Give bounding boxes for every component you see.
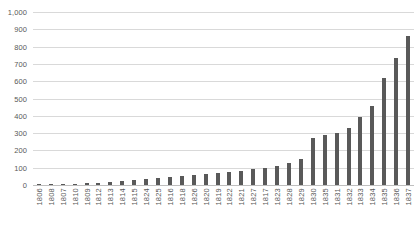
x-axis-tick-label: 1813 xyxy=(106,188,115,206)
x-axis-tick-label: 1834 xyxy=(368,188,377,206)
bar-slot xyxy=(224,12,236,185)
bar-slot xyxy=(45,12,57,185)
bar-slot xyxy=(259,12,271,185)
bar-slot xyxy=(366,12,378,185)
y-axis-tick-label: 500 xyxy=(14,94,27,103)
x-axis-tick-label: 1820 xyxy=(202,188,211,206)
bar xyxy=(85,183,89,185)
y-axis-tick-label: 700 xyxy=(14,59,27,68)
x-axis-tick-label: 1815 xyxy=(130,188,139,206)
bar-slot xyxy=(390,12,402,185)
x-axis-tick-label: 1823 xyxy=(273,188,282,206)
bar xyxy=(49,184,53,185)
bar-slot xyxy=(295,12,307,185)
bar-slot xyxy=(152,12,164,185)
x-axis: 1806180818071810180918121813181418151824… xyxy=(33,188,414,238)
bar-slot xyxy=(331,12,343,185)
bar xyxy=(132,180,136,185)
bar-slot xyxy=(57,12,69,185)
bar-slot xyxy=(212,12,224,185)
x-axis-tick-label: 1831 xyxy=(333,188,342,206)
x-axis-tick-label: 1837 xyxy=(404,188,413,206)
bar xyxy=(96,183,100,185)
bar-slot xyxy=(81,12,93,185)
bar xyxy=(120,181,124,185)
x-axis-tick-label: 1816 xyxy=(166,188,175,206)
bar xyxy=(299,159,303,185)
y-axis-tick-label: 900 xyxy=(14,25,27,34)
x-axis-tick-label: 1824 xyxy=(142,188,151,206)
bar xyxy=(216,173,220,185)
bar xyxy=(37,184,41,185)
x-axis-tick-label: 1809 xyxy=(83,188,92,206)
bar xyxy=(168,177,172,185)
x-axis-tick-label: 1822 xyxy=(225,188,234,206)
bar xyxy=(358,117,362,185)
bar-slot xyxy=(33,12,45,185)
bar xyxy=(347,128,351,185)
bar xyxy=(108,182,112,185)
bar-slot xyxy=(378,12,390,185)
x-axis-tick-label: 1806 xyxy=(35,188,44,206)
bar-slot xyxy=(283,12,295,185)
x-axis-tick-label: 1819 xyxy=(214,188,223,206)
bar-slot xyxy=(188,12,200,185)
y-axis-tick-label: 800 xyxy=(14,42,27,51)
x-axis-tick-label: 1817 xyxy=(261,188,270,206)
bar-slot xyxy=(164,12,176,185)
bar-slot xyxy=(343,12,355,185)
bar-chart: 1,0009008007006005004003002001000 180618… xyxy=(0,0,418,238)
y-axis-tick-label: 300 xyxy=(14,129,27,138)
bar xyxy=(287,163,291,185)
y-axis-tick-label: 100 xyxy=(14,163,27,172)
bars-container xyxy=(33,12,414,185)
x-axis-tick-label: 1821 xyxy=(237,188,246,206)
bar-slot xyxy=(307,12,319,185)
bar xyxy=(180,176,184,185)
bar-slot xyxy=(93,12,105,185)
bar xyxy=(323,135,327,185)
x-axis-tick-label: 1833 xyxy=(356,188,365,206)
bar-slot xyxy=(176,12,188,185)
bar xyxy=(394,58,398,185)
y-axis-tick-label: 0 xyxy=(23,181,27,190)
bar-slot xyxy=(271,12,283,185)
x-axis-tick-label: 1827 xyxy=(249,188,258,206)
bar-slot xyxy=(354,12,366,185)
bar xyxy=(192,175,196,185)
x-axis-tick-label: 1807 xyxy=(59,188,68,206)
x-axis-tick-label: 1836 xyxy=(392,188,401,206)
bar xyxy=(239,171,243,185)
x-axis-tick-label: 1832 xyxy=(345,188,354,206)
x-axis-tick-label: 1812 xyxy=(94,188,103,206)
bar xyxy=(144,179,148,185)
x-axis-tick-label: 1835 xyxy=(380,188,389,206)
x-axis-tick-label: 1835 xyxy=(321,188,330,206)
y-axis-tick-label: 200 xyxy=(14,146,27,155)
bar-slot xyxy=(319,12,331,185)
x-axis-tick-label: 1808 xyxy=(47,188,56,206)
x-axis-tick-label: 1826 xyxy=(190,188,199,206)
bar xyxy=(227,172,231,185)
y-axis-tick-label: 600 xyxy=(14,77,27,86)
x-axis-tick-label: 1810 xyxy=(71,188,80,206)
x-axis-tick-label: 1829 xyxy=(297,188,306,206)
x-axis-tick-label: 1818 xyxy=(178,188,187,206)
bar xyxy=(275,166,279,185)
bar xyxy=(61,184,65,185)
x-axis-tick-label: 1828 xyxy=(285,188,294,206)
bar xyxy=(156,178,160,185)
y-axis-tick-label: 1,000 xyxy=(8,8,27,17)
bar xyxy=(73,184,77,185)
bar-slot xyxy=(104,12,116,185)
bar xyxy=(263,168,267,185)
bar-slot xyxy=(200,12,212,185)
bar-slot xyxy=(116,12,128,185)
bar xyxy=(311,138,315,185)
bar xyxy=(251,169,255,185)
bar-slot xyxy=(247,12,259,185)
bar-slot xyxy=(128,12,140,185)
bar-slot xyxy=(235,12,247,185)
bar-slot xyxy=(140,12,152,185)
bar-slot xyxy=(69,12,81,185)
